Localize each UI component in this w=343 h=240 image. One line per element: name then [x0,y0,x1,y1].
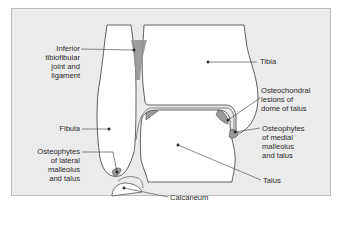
label-line: malleolus [18,165,80,174]
label-line: tibiofibular [18,53,80,62]
label-osteophytes-medial: Osteophytes of medial malleolus and talu… [262,124,305,160]
talus-bone [140,110,235,182]
label-tibia: Tibia [260,57,276,66]
label-line: malleolus [262,142,305,151]
label-line: Talus [263,176,281,185]
label-line: Osteophytes [18,147,80,156]
label-line: Inferior [18,44,80,53]
label-line: and talus [18,174,80,183]
label-line: of lateral [18,156,80,165]
label-fibula: Fibula [18,124,80,133]
calcaneum-bone [112,183,142,196]
label-line: Calcaneum [170,193,208,202]
label-line: Tibia [260,57,276,66]
label-line: dome of talus [261,104,310,113]
label-line: Osteophytes [262,124,305,133]
label-line: and talus [262,151,305,160]
label-line: joint and [18,62,80,71]
label-calcaneum: Calcaneum [170,193,208,202]
label-line: of medial [262,133,305,142]
label-osteochondral-lesions: Osteochondral lesions of dome of talus [261,86,310,113]
label-line: Fibula [18,124,80,133]
label-talus: Talus [263,176,281,185]
fibula-bone [97,25,136,176]
label-line: ligament [18,71,80,80]
label-line: lesions of [261,95,310,104]
label-osteophytes-lateral: Osteophytes of lateral malleolus and tal… [18,147,80,183]
label-line: Osteochondral [261,86,310,95]
label-inferior-tibiofibular-joint: Inferior tibiofibular joint and ligament [18,44,80,80]
